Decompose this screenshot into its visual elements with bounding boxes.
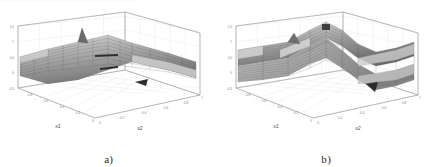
z-tick: -0.5 <box>226 87 232 91</box>
subfigure-caption-b: b) <box>218 153 435 165</box>
x1-tick: 0.2 <box>76 111 81 115</box>
x2-tick: 0.8 <box>184 101 189 105</box>
x2-tick: 0.8 <box>401 101 406 105</box>
surface-plot-b-svg: 1.5 1 0.5 0 -0.5 0.8 0.6 0.4 0.2 0 0 0.2… <box>218 0 435 140</box>
x1-tick: 0.6 <box>44 99 49 103</box>
z-tick: 0.5 <box>227 56 232 60</box>
z-tick: -0.5 <box>9 87 15 91</box>
x2-tick: 0 <box>99 121 101 125</box>
x2-tick: 0.4 <box>359 111 364 115</box>
surface-plot-a-svg: 1.5 1 0.5 0 -0.5 0.8 0.6 0.4 0.2 0 0 <box>0 0 218 140</box>
x1-tick: 0.4 <box>277 105 282 109</box>
x2-tick: 0.6 <box>164 106 169 110</box>
z-tick: 0.5 <box>10 56 15 60</box>
panel-b: 1.5 1 0.5 0 -0.5 0.8 0.6 0.4 0.2 0 0 0.2… <box>218 0 435 167</box>
surface-plot-a: 1.5 1 0.5 0 -0.5 0.8 0.6 0.4 0.2 0 0 <box>0 0 218 140</box>
x1-axis-label: x1 <box>54 123 61 129</box>
x2-axis-label: x2 <box>354 125 361 131</box>
x2-tick: 0.2 <box>120 116 125 120</box>
x2-tick: 1 <box>201 96 203 100</box>
z-tick: 1.5 <box>227 25 232 29</box>
x2-tick: 0.4 <box>142 111 147 115</box>
z-tick-labels-a: 1.5 1 0.5 0 -0.5 <box>9 25 15 91</box>
x2-tick: 0.6 <box>381 106 386 110</box>
panel-a: 1.5 1 0.5 0 -0.5 0.8 0.6 0.4 0.2 0 0 <box>0 0 218 167</box>
x1-tick: 0.6 <box>261 99 266 103</box>
z-tick: 1 <box>12 40 14 44</box>
x2-tick: 0.2 <box>337 116 342 120</box>
z-tick: 1.5 <box>10 25 15 29</box>
x2-tick: 0 <box>317 121 319 125</box>
x2-axis-label: x2 <box>136 125 143 131</box>
x1-tick: 0 <box>310 119 312 123</box>
z-tick: 1 <box>230 40 232 44</box>
figure-container: 1.5 1 0.5 0 -0.5 0.8 0.6 0.4 0.2 0 0 <box>0 0 435 167</box>
x1-tick: 0.4 <box>60 105 65 109</box>
x1-tick: 0.8 <box>28 93 33 97</box>
z-tick: 0 <box>12 71 14 75</box>
x1-axis-label: x1 <box>272 123 279 129</box>
x2-tick: 1 <box>419 96 421 100</box>
surface-plot-b: 1.5 1 0.5 0 -0.5 0.8 0.6 0.4 0.2 0 0 0.2… <box>218 0 435 140</box>
subfigure-caption-a: a) <box>0 153 218 165</box>
x1-tick: 0 <box>92 119 94 123</box>
z-tick: 0 <box>230 71 232 75</box>
x1-tick: 0.2 <box>293 111 298 115</box>
x1-tick: 0.8 <box>245 93 250 97</box>
z-tick-labels-b: 1.5 1 0.5 0 -0.5 <box>226 25 232 91</box>
